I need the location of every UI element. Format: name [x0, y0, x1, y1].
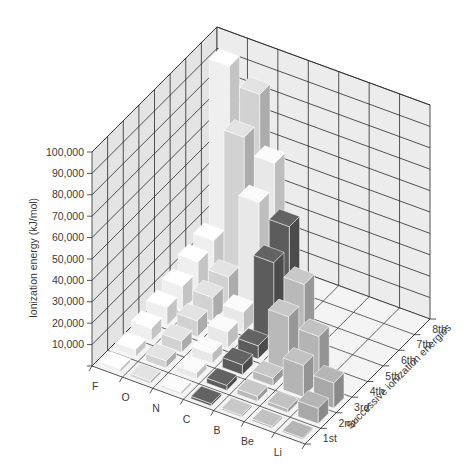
x-tick — [211, 411, 214, 416]
y-axis-title: Ionization energy (kJ/mol) — [27, 198, 39, 318]
y-tick-label: 100,000 — [46, 146, 84, 158]
y-tick-label: 70,000 — [52, 210, 84, 222]
element-label: N — [152, 402, 160, 414]
y-tick-label: 90,000 — [52, 167, 84, 179]
y-tick-label: 40,000 — [52, 274, 84, 286]
y-tick-label: 20,000 — [52, 317, 84, 329]
y-tick-label: 80,000 — [52, 188, 84, 200]
x-tick — [302, 444, 305, 449]
element-label: O — [122, 391, 130, 403]
ionization-label: 1st — [323, 432, 337, 444]
y-tick-label: 60,000 — [52, 231, 84, 243]
x-tick — [150, 388, 153, 393]
x-tick — [241, 422, 244, 427]
x-tick — [180, 399, 183, 404]
y-tick-label: 50,000 — [52, 253, 84, 265]
x-tick — [89, 366, 92, 371]
element-label: C — [183, 413, 191, 425]
x-tick — [272, 433, 275, 438]
y-tick-label: 10,000 — [52, 338, 84, 350]
element-label: Li — [274, 446, 282, 458]
x-tick — [119, 377, 122, 382]
y-tick-label: 30,000 — [52, 295, 84, 307]
ionization-energy-3d-bar-chart: 10,00020,00030,00040,00050,00060,00070,0… — [0, 0, 471, 470]
element-label: B — [213, 424, 220, 436]
element-label: Be — [241, 435, 254, 447]
bar-Be-3rd — [283, 348, 313, 398]
element-label: F — [92, 380, 98, 392]
